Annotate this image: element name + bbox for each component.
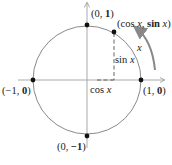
label-bottom: (0, −1) <box>57 141 86 153</box>
point-top <box>85 23 90 28</box>
unit-circle-diagram: (0, 1) (cos x, sin x) (1, 0) (−1, 0) (0,… <box>0 0 172 165</box>
point-left <box>31 78 36 83</box>
point-moving <box>112 30 117 35</box>
label-right: (1, 0) <box>143 85 166 97</box>
label-arc-x: x <box>136 42 142 53</box>
label-moving: (cos x, sin x) <box>117 18 171 30</box>
label-cos-x: cos x <box>90 84 112 95</box>
point-right <box>139 78 144 83</box>
point-bottom <box>85 134 90 139</box>
label-sin-x: sin x <box>115 54 135 65</box>
label-top: (0, 1) <box>91 8 114 20</box>
label-left: (−1, 0) <box>2 85 31 97</box>
